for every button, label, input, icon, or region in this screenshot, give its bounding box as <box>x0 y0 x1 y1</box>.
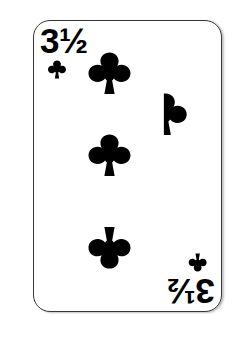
playing-card[interactable]: 3½ 3½ <box>33 20 222 312</box>
rank-label-top-left: 3½ <box>40 23 88 59</box>
rank-label-bottom-right: 3½ <box>167 273 215 309</box>
club-pip-half <box>162 92 190 141</box>
corner-index-top-left: 3½ <box>40 23 88 81</box>
club-pip-full-1 <box>86 51 133 100</box>
club-pip-full-3-inverted <box>86 221 133 270</box>
club-icon-bottom-right <box>188 251 208 272</box>
card-face: 3½ 3½ <box>34 21 221 311</box>
image-canvas: 3½ 3½ <box>0 0 243 345</box>
club-icon-top-left <box>47 60 67 81</box>
corner-index-bottom-right: 3½ <box>167 251 215 309</box>
club-pip-full-2 <box>86 133 133 182</box>
